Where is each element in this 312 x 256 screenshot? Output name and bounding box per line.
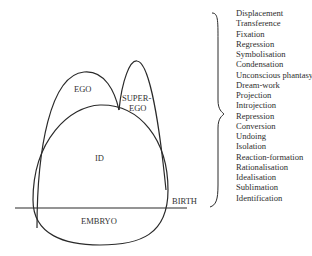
mechanism-item: Identification xyxy=(236,193,312,203)
superego-arch xyxy=(119,61,166,190)
mechanism-item: Conversion xyxy=(236,121,312,131)
ego-label: EGO xyxy=(74,84,91,94)
mechanism-item: Reaction-formation xyxy=(236,152,312,162)
mechanism-item: Repression xyxy=(236,111,312,121)
defence-mechanisms-list: Displacement Transference Fixation Regre… xyxy=(236,8,312,203)
embryo-label: EMBRYO xyxy=(81,216,117,226)
mechanism-item: Displacement xyxy=(236,8,312,18)
mechanism-item: Fixation xyxy=(236,29,312,39)
id-label: ID xyxy=(95,153,104,163)
mechanism-item: Undoing xyxy=(236,131,312,141)
mechanism-item: Projection xyxy=(236,90,312,100)
mechanism-item: Condensation xyxy=(236,59,312,69)
mechanism-item: Symbolisation xyxy=(236,49,312,59)
mechanism-item: Sublimation xyxy=(236,182,312,192)
mechanism-item: Dream-work xyxy=(236,80,312,90)
ego-arch xyxy=(37,72,119,228)
mechanism-item: Regression xyxy=(236,39,312,49)
mechanism-item: Introjection xyxy=(236,100,312,110)
birth-label: BIRTH xyxy=(172,196,197,206)
superego-label-line1: SUPER- xyxy=(122,93,151,103)
mechanism-item: Rationalisation xyxy=(236,162,312,172)
mechanism-item: Transference xyxy=(236,18,312,28)
mechanism-item: Idealisation xyxy=(236,172,312,182)
mechanism-item: Isolation xyxy=(236,141,312,151)
mechanism-item: Unconscious phantasy xyxy=(236,70,312,80)
brace-icon xyxy=(210,13,224,207)
superego-label-line2: EGO xyxy=(129,103,146,113)
